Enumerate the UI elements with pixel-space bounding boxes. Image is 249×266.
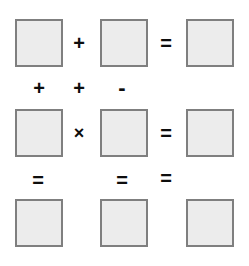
operator-times-row2: × — [65, 119, 93, 147]
puzzle-box-r1c3[interactable] — [186, 19, 234, 67]
math-puzzle-grid: + = + + - × = = = = — [0, 0, 249, 266]
operator-equals-row2: = — [152, 119, 180, 147]
operator-equals-row1: = — [152, 29, 180, 57]
operator-minus-col3: - — [108, 74, 136, 102]
puzzle-box-r3c3[interactable] — [186, 199, 234, 247]
operator-equals-col1: = — [24, 166, 52, 194]
operator-equals-col3: = — [152, 164, 180, 192]
puzzle-box-r1c2[interactable] — [100, 19, 148, 67]
operator-plus-col2: + — [65, 74, 93, 102]
puzzle-box-r1c1[interactable] — [15, 19, 63, 67]
operator-plus-row1: + — [65, 29, 93, 57]
operator-plus-col1: + — [25, 74, 53, 102]
puzzle-box-r2c3[interactable] — [186, 109, 234, 157]
puzzle-box-r3c1[interactable] — [15, 199, 63, 247]
puzzle-box-r3c2[interactable] — [100, 199, 148, 247]
puzzle-box-r2c1[interactable] — [15, 109, 63, 157]
operator-equals-col2: = — [108, 166, 136, 194]
puzzle-box-r2c2[interactable] — [100, 109, 148, 157]
